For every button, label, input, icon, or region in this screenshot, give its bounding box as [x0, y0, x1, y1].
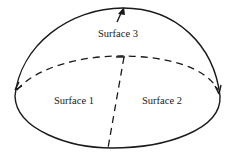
base-back-arc [17, 56, 218, 90]
hemisphere-diagram: Surface 3 Surface 1 Surface 2 [0, 0, 230, 158]
label-surface-1: Surface 1 [54, 95, 94, 106]
label-surface-2: Surface 2 [142, 95, 182, 106]
base-front-arc [15, 96, 220, 148]
dividing-line [108, 57, 124, 148]
label-surface-3: Surface 3 [98, 28, 138, 39]
